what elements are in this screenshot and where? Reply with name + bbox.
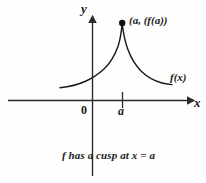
figure-caption: f has a cusp at x = a	[62, 150, 155, 161]
x-axis-label: x	[194, 96, 201, 109]
function-curve-label: f(x)	[170, 72, 187, 83]
cusp-point-label: (a, (f(a))	[129, 15, 167, 26]
origin-label: 0	[81, 104, 87, 116]
cusp-point-marker	[119, 20, 125, 26]
y-axis-label: y	[81, 2, 87, 15]
x-tick-label-a: a	[118, 105, 124, 117]
cusp-figure: y x 0 a (a, (f(a)) f(x) f has a cusp at …	[0, 0, 206, 183]
function-curve	[60, 24, 172, 88]
